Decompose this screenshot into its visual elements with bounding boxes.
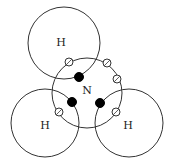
atom-shells bbox=[11, 7, 163, 157]
nitrogen-electron-dot-icon bbox=[68, 98, 77, 107]
atom-label-h-right: H bbox=[123, 119, 133, 132]
atom-label-h-top: H bbox=[56, 36, 66, 49]
atom-label-n: N bbox=[82, 84, 92, 97]
atom-label-h-left: H bbox=[40, 119, 50, 132]
nh3-dot-cross-diagram: H N H H bbox=[0, 0, 170, 163]
atom-labels: H N H H bbox=[40, 36, 133, 132]
nitrogen-electron-dot-icon bbox=[75, 73, 84, 82]
nitrogen-electron-dot-icon bbox=[96, 99, 105, 108]
diagram-canvas: H N H H bbox=[0, 0, 170, 163]
